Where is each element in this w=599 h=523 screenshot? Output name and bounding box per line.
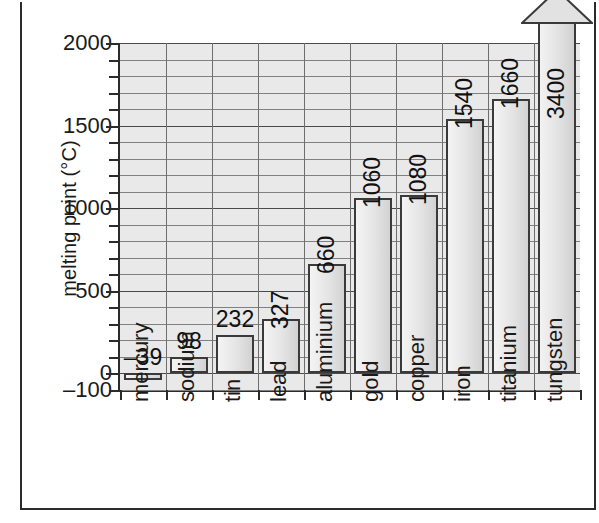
y-axis-tick: [109, 307, 120, 309]
y-axis-tick: [109, 142, 120, 144]
y-axis-tick: [109, 225, 120, 227]
category-divider: [396, 43, 397, 390]
y-axis-tick: [106, 291, 120, 293]
y-axis-tick: [106, 43, 120, 45]
y-axis-tick: [106, 373, 120, 375]
x-axis-tick: [258, 390, 260, 400]
chart-figure: melting point (°C) 2000150010005000–100 …: [0, 0, 599, 523]
x-axis-label-gold: gold: [360, 360, 382, 402]
y-axis-tick-label: 1500: [32, 115, 112, 137]
x-axis-tick: [120, 390, 122, 400]
x-axis-tick: [534, 390, 536, 400]
x-axis-label-tin: tin: [222, 379, 244, 402]
category-divider: [442, 43, 443, 390]
y-axis-tick: [109, 76, 120, 78]
y-axis-tick: [109, 175, 120, 177]
bar-value-label-titanium: 1660: [499, 58, 522, 109]
bar-value-label-gold: 1060: [361, 157, 384, 208]
x-axis-tick: [442, 390, 444, 400]
x-axis-tick: [212, 390, 214, 400]
bar-value-label-tin: 232: [210, 308, 260, 331]
bar-value-label-aluminium: 660: [315, 236, 338, 274]
figure-border-right: [594, 2, 596, 510]
x-axis-label-mercury: mercury: [130, 323, 152, 402]
x-axis-tick: [166, 390, 168, 400]
bar-value-label-lead: 327: [269, 291, 292, 329]
category-divider: [258, 43, 259, 390]
category-divider: [488, 43, 489, 390]
y-axis-tick-label: –100: [32, 379, 112, 401]
x-axis-tick: [488, 390, 490, 400]
y-axis-tick: [109, 357, 120, 359]
x-axis-label-iron: iron: [452, 365, 474, 402]
y-axis-tick: [109, 192, 120, 194]
x-axis-label-aluminium: aluminium: [314, 302, 336, 402]
bar-gold[interactable]: [354, 198, 392, 373]
x-axis-tick: [580, 390, 582, 400]
y-axis-tick-label: 1000: [32, 197, 112, 219]
bar-iron[interactable]: [446, 119, 484, 373]
y-axis-tick: [109, 390, 120, 392]
y-axis-tick-labels: 2000150010005000–100: [30, 0, 112, 523]
y-axis-tick: [109, 241, 120, 243]
bar-tin[interactable]: [216, 335, 254, 373]
x-axis-label-titanium: titanium: [498, 325, 520, 402]
y-axis-tick: [109, 93, 120, 95]
category-divider: [534, 43, 535, 390]
x-axis-label-lead: lead: [268, 360, 290, 402]
x-axis-label-sodium: sodium: [176, 331, 198, 402]
x-axis-tick: [396, 390, 398, 400]
y-axis-tick-label: 2000: [32, 32, 112, 54]
y-axis-tick: [109, 340, 120, 342]
y-axis-tick: [109, 258, 120, 260]
category-divider: [350, 43, 351, 390]
category-divider: [304, 43, 305, 390]
y-axis-tick: [106, 126, 120, 128]
y-axis-tick: [109, 60, 120, 62]
y-axis-tick: [109, 324, 120, 326]
bar-arrow-head-tungsten: [521, 0, 593, 27]
y-axis-tick: [109, 274, 120, 276]
y-axis-tick: [106, 208, 120, 210]
y-axis-tick: [109, 109, 120, 111]
bar-value-label-tungsten: 3400: [545, 68, 568, 119]
bar-value-label-copper: 1080: [407, 154, 430, 205]
y-axis-tick: [109, 159, 120, 161]
x-axis-label-tungsten: tungsten: [544, 318, 566, 402]
x-axis-tick: [350, 390, 352, 400]
x-axis-label-copper: copper: [406, 335, 428, 402]
figure-border-left: [20, 2, 22, 510]
y-axis-tick-label: 500: [32, 280, 112, 302]
x-axis-tick: [304, 390, 306, 400]
bar-value-label-iron: 1540: [453, 78, 476, 129]
